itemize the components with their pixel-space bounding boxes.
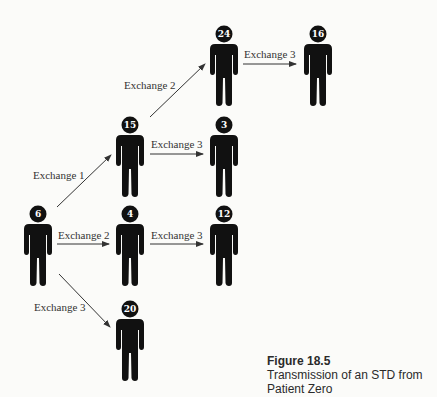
figure-caption: Figure 18.5 Transmission of an STD from …: [267, 354, 437, 396]
person-figure: 20: [116, 301, 144, 382]
edge-p6-p15: [57, 155, 111, 207]
edge-label: Exchange 1: [33, 169, 85, 181]
person-figure: 3: [210, 117, 238, 198]
edge-label: Exchange 3: [151, 229, 203, 241]
person-number: 3: [221, 120, 227, 130]
person-number: 24: [218, 29, 231, 39]
edge-label: Exchange 3: [151, 138, 203, 150]
figure-number: Figure 18.5: [267, 354, 437, 368]
edge-label: Exchange 3: [34, 301, 86, 313]
person-figure: 24: [210, 26, 238, 107]
person-figure: 15: [116, 117, 144, 198]
person-number: 20: [124, 304, 137, 314]
person-number: 6: [35, 209, 41, 219]
edge-label: Exchange 3: [244, 48, 296, 60]
person-figure: 16: [304, 26, 332, 107]
person-number: 15: [124, 120, 137, 130]
person-number: 16: [312, 29, 325, 39]
edge-label: Exchange 2: [124, 79, 176, 91]
person-number: 12: [218, 209, 231, 219]
edges: Exchange 1 Exchange 2 Exchange 3 Exchang…: [33, 48, 296, 327]
person-figure: 4: [116, 206, 144, 287]
person-figure: 12: [210, 206, 238, 287]
edge-label: Exchange 2: [58, 229, 110, 241]
person-figure: 6: [24, 206, 52, 287]
transmission-diagram: Exchange 1 Exchange 2 Exchange 3 Exchang…: [0, 0, 437, 397]
people: 6 15 24 16 3 4 12 20: [24, 26, 332, 382]
figure-caption-text: Transmission of an STD from Patient Zero: [267, 368, 437, 396]
person-number: 4: [127, 209, 133, 219]
